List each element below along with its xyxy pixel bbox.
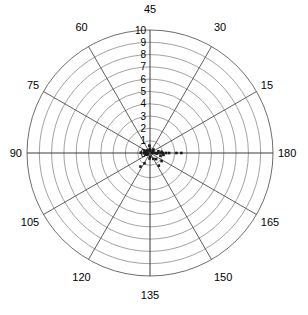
angle-tick-label-165: 165	[261, 216, 279, 228]
data-point	[168, 152, 171, 155]
data-point	[146, 149, 149, 152]
angle-tick-label-15: 15	[261, 79, 273, 91]
data-point	[143, 150, 146, 153]
radial-tick-label-6: 6	[140, 74, 146, 85]
angular-grid-spokes	[27, 30, 273, 276]
angle-tick-label-120: 120	[72, 271, 90, 283]
data-point	[159, 155, 162, 158]
radial-tick-label-4: 4	[140, 98, 146, 109]
data-point	[148, 157, 151, 160]
data-point	[157, 150, 160, 153]
spoke-75deg	[43, 92, 150, 154]
data-point	[160, 150, 163, 153]
data-point	[175, 152, 178, 155]
data-point	[143, 162, 146, 165]
spoke-120deg	[89, 153, 151, 260]
radial-tick-label-10: 10	[135, 25, 147, 36]
data-point	[155, 158, 158, 161]
data-point	[139, 151, 142, 154]
angle-tick-label-90: 90	[10, 147, 22, 159]
radial-tick-label-9: 9	[140, 37, 146, 48]
data-point	[158, 164, 161, 167]
data-point	[162, 154, 165, 157]
data-point	[149, 149, 152, 152]
spoke-30deg	[150, 46, 212, 153]
radial-tick-label-2: 2	[140, 123, 146, 134]
data-point	[155, 152, 158, 155]
angle-tick-label-30: 30	[214, 21, 226, 33]
polar-chart: 453015180165150135120105907560 012345678…	[0, 0, 308, 315]
polar-plot-canvas: 453015180165150135120105907560 012345678…	[0, 0, 308, 315]
data-point	[160, 160, 163, 163]
spoke-150deg	[150, 153, 212, 260]
data-point	[165, 152, 168, 155]
angle-tick-label-180: 180	[278, 147, 296, 159]
radial-tick-label-3: 3	[140, 111, 146, 122]
data-point	[148, 144, 151, 147]
angle-tick-label-150: 150	[214, 271, 232, 283]
data-point	[139, 165, 142, 168]
radial-tick-labels: 012345678910	[135, 25, 147, 159]
radial-tick-label-1: 1	[140, 135, 146, 146]
angle-tick-label-45: 45	[144, 3, 156, 15]
data-point	[152, 150, 155, 153]
angle-tick-label-135: 135	[141, 289, 159, 301]
spoke-15deg	[150, 92, 257, 154]
radial-tick-label-7: 7	[140, 61, 146, 72]
spoke-105deg	[43, 153, 150, 215]
spoke-165deg	[150, 153, 257, 215]
radial-tick-label-8: 8	[140, 49, 146, 60]
data-point	[145, 153, 148, 156]
angle-tick-label-105: 105	[21, 216, 39, 228]
angle-tick-label-60: 60	[75, 21, 87, 33]
radial-tick-label-5: 5	[140, 86, 146, 97]
data-point	[180, 152, 183, 155]
data-point	[152, 158, 155, 161]
angle-tick-label-75: 75	[27, 79, 39, 91]
